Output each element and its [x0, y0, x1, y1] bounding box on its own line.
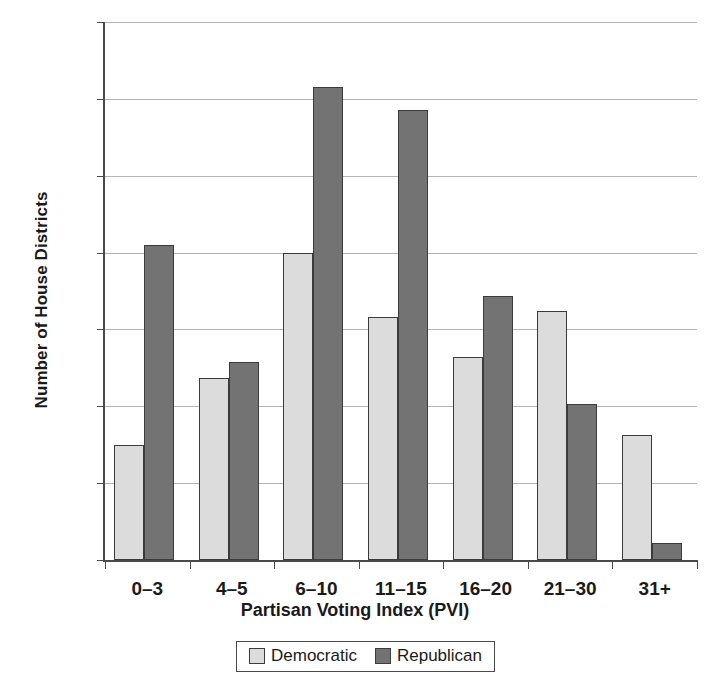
bar-republican-1	[229, 362, 259, 560]
y-tick-mark	[97, 483, 105, 484]
bar-democratic-1	[199, 378, 229, 560]
bar-democratic-4	[453, 357, 483, 560]
x-tick-label: 31+	[600, 578, 710, 600]
legend-item-republican: Republican	[375, 646, 482, 666]
x-tick-mark	[612, 560, 613, 569]
bar-republican-4	[483, 296, 513, 560]
x-tick-mark	[443, 560, 444, 569]
bar-democratic-0	[114, 445, 144, 560]
legend-item-democratic: Democratic	[249, 646, 357, 666]
x-axis-title: Partisan Voting Index (PVI)	[0, 600, 710, 621]
bar-group	[443, 22, 528, 560]
bar-democratic-3	[368, 317, 398, 560]
bar-group	[359, 22, 444, 560]
bar-republican-6	[652, 543, 682, 560]
bar-republican-2	[313, 87, 343, 560]
y-tick-mark	[97, 253, 105, 254]
y-tick-mark	[97, 22, 105, 23]
legend-label: Democratic	[271, 646, 357, 666]
bar-democratic-2	[283, 253, 313, 560]
legend-label: Republican	[397, 646, 482, 666]
y-tick-mark	[97, 560, 105, 561]
bar-republican-3	[398, 110, 428, 560]
x-tick-mark	[105, 560, 106, 569]
chart-legend: DemocraticRepublican	[236, 641, 495, 672]
legend-swatch-icon	[375, 648, 391, 664]
x-tick-mark	[274, 560, 275, 569]
bar-republican-5	[567, 404, 597, 560]
y-tick-mark	[97, 99, 105, 100]
plot-area: 010203040506070 0–34–56–1011–1516–2021–3…	[103, 22, 697, 562]
x-tick-mark	[528, 560, 529, 569]
bar-group	[612, 22, 697, 560]
y-tick-mark	[97, 329, 105, 330]
x-tick-mark	[697, 560, 698, 569]
x-tick-mark	[359, 560, 360, 569]
bar-republican-0	[144, 245, 174, 560]
bar-group	[274, 22, 359, 560]
bar-group	[190, 22, 275, 560]
bar-chart: Number of House Districts 01020304050607…	[0, 0, 710, 695]
bar-group	[105, 22, 190, 560]
y-axis-title: Number of House Districts	[32, 90, 52, 510]
y-tick-mark	[97, 176, 105, 177]
bar-democratic-5	[537, 311, 567, 560]
bars-layer	[105, 22, 697, 560]
bar-democratic-6	[622, 435, 652, 560]
legend-swatch-icon	[249, 648, 265, 664]
y-tick-mark	[97, 406, 105, 407]
x-tick-mark	[190, 560, 191, 569]
bar-group	[528, 22, 613, 560]
